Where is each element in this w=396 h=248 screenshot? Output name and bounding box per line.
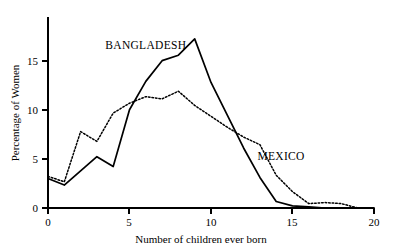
- x-axis-tick-labels: 0 5 10 15 20: [45, 216, 380, 228]
- y-axis-ticks: [42, 61, 48, 208]
- chart-figure: 0 5 10 15 0 5 10 15 20 Number of childre…: [0, 0, 396, 248]
- x-tick-label-15: 15: [287, 216, 299, 228]
- series-label-mexico: MEXICO: [258, 150, 305, 162]
- x-axis-ticks: [48, 208, 374, 214]
- y-tick-label-0: 0: [33, 202, 39, 214]
- x-tick-label-5: 5: [126, 216, 132, 228]
- y-tick-label-15: 15: [27, 55, 39, 67]
- x-tick-label-20: 20: [369, 216, 381, 228]
- series-label-bangladesh: BANGLADESH: [105, 39, 186, 51]
- series-line-mexico: [48, 91, 374, 208]
- series-line-bangladesh: [48, 39, 374, 208]
- x-axis-title: Number of children ever born: [135, 233, 267, 245]
- y-axis-title: Percentage of Women: [9, 64, 21, 161]
- line-chart-canvas: 0 5 10 15 0 5 10 15 20 Number of childre…: [0, 0, 396, 248]
- x-tick-label-10: 10: [206, 216, 218, 228]
- y-axis-tick-labels: 0 5 10 15: [27, 55, 39, 214]
- x-tick-label-0: 0: [45, 216, 51, 228]
- y-tick-label-10: 10: [27, 104, 39, 116]
- y-tick-label-5: 5: [33, 153, 39, 165]
